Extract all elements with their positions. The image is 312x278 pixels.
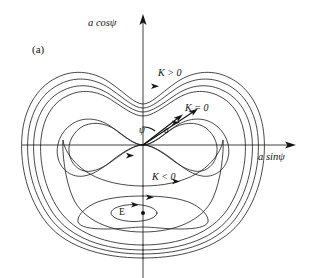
label-k-zero: K = 0 xyxy=(185,103,208,113)
flow-arrow-outer-top xyxy=(151,83,159,89)
contour-lower-1-innermost xyxy=(111,205,157,222)
flow-arrow-separatrix-left xyxy=(126,153,134,159)
phase-portrait-svg xyxy=(0,0,312,278)
label-center-point-e: E xyxy=(119,208,125,218)
panel-label: (a) xyxy=(32,44,44,55)
figure-container: (a) a cosψ a sinψ K > 0 K = 0 K < 0 ψ a … xyxy=(0,0,312,278)
label-psi-vector: ψ xyxy=(139,126,145,136)
center-fixed-point-dot xyxy=(141,211,145,215)
horizontal-axis-label: a sinψ xyxy=(258,152,285,163)
phase-vector-line xyxy=(143,118,178,145)
label-k-negative: K < 0 xyxy=(152,172,175,182)
vertical-axis-label: a cosψ xyxy=(88,18,116,29)
label-k-positive: K > 0 xyxy=(158,68,181,78)
flow-arrow-lower-middle xyxy=(146,194,154,200)
label-a-vector: a xyxy=(164,126,169,136)
